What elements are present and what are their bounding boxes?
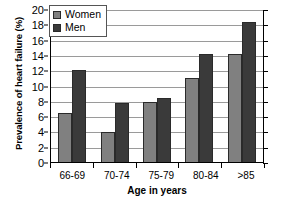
legend-swatch-women-icon bbox=[53, 11, 61, 19]
bar-group-80-84 bbox=[185, 10, 213, 163]
x-axis-tick-marks bbox=[50, 163, 264, 170]
y-axis-tick-mark bbox=[44, 25, 48, 26]
legend-item-men: Men bbox=[53, 21, 101, 34]
y-axis-tick-mark bbox=[44, 163, 48, 164]
y-axis-tick-mark bbox=[44, 117, 48, 118]
legend-label-men: Men bbox=[65, 22, 85, 33]
x-axis-tick-label: >85 bbox=[238, 170, 255, 181]
right-axis-tick-mark bbox=[263, 132, 268, 133]
x-axis-tick-label: 75-79 bbox=[149, 170, 175, 181]
y-axis-tick-mark bbox=[44, 71, 48, 72]
y-axis-tick-label: 10 bbox=[32, 81, 44, 92]
right-axis-tick-mark bbox=[263, 10, 268, 11]
y-axis-tick-label: 16 bbox=[32, 35, 44, 46]
right-axis-tick-mark bbox=[263, 56, 268, 57]
x-axis-tick-labels: 66-6970-7475-7980-84>85 bbox=[50, 170, 264, 181]
right-axis-tick-mark bbox=[263, 117, 268, 118]
bar-group-85 bbox=[228, 10, 256, 163]
right-axis-tick-mark bbox=[263, 102, 268, 103]
y-axis-tick-label: 14 bbox=[32, 50, 44, 61]
y-axis-tick-mark bbox=[44, 55, 48, 56]
right-axis-tick-mark bbox=[263, 71, 268, 72]
x-axis-tick-mark bbox=[221, 163, 222, 168]
y-axis-tick-mark bbox=[44, 132, 48, 133]
bar-men bbox=[72, 70, 86, 163]
x-axis-tick-mark bbox=[50, 163, 51, 168]
right-axis-tick-mark bbox=[263, 41, 268, 42]
legend-item-women: Women bbox=[53, 8, 101, 21]
bar-men bbox=[242, 22, 256, 163]
y-axis-tick-labels: 02468101214161820 bbox=[18, 0, 48, 204]
x-axis-tick-label: 70-74 bbox=[104, 170, 130, 181]
y-axis-tick-label: 12 bbox=[32, 66, 44, 77]
bar-chart: Prevalence of heart failure (%) 02468101… bbox=[0, 0, 282, 204]
x-axis-title: Age in years bbox=[50, 185, 264, 196]
y-axis-tick-mark bbox=[44, 86, 48, 87]
y-axis-tick-mark bbox=[44, 40, 48, 41]
bar-women bbox=[185, 78, 199, 163]
y-axis-tick-mark bbox=[44, 147, 48, 148]
x-axis-tick-mark bbox=[93, 163, 94, 168]
legend-label-women: Women bbox=[65, 9, 101, 20]
x-axis-tick-label: 80-84 bbox=[193, 170, 219, 181]
legend: Women Men bbox=[49, 5, 107, 37]
right-axis-tick-mark bbox=[263, 25, 268, 26]
bar-women bbox=[143, 102, 157, 163]
y-axis-tick-mark bbox=[44, 101, 48, 102]
x-axis-tick-label: 66-69 bbox=[59, 170, 85, 181]
bar-men bbox=[115, 103, 129, 163]
bar-women bbox=[228, 54, 242, 163]
right-axis-tick-mark bbox=[263, 148, 268, 149]
bar-women bbox=[58, 113, 72, 163]
x-axis-tick-mark bbox=[264, 163, 265, 168]
bar-men bbox=[157, 98, 171, 163]
bar-group-75-79 bbox=[143, 10, 171, 163]
bar-women bbox=[101, 132, 115, 163]
x-axis-tick-mark bbox=[178, 163, 179, 168]
right-axis-tick-mark bbox=[263, 87, 268, 88]
y-axis-tick-label: 18 bbox=[32, 20, 44, 31]
x-axis-tick-mark bbox=[136, 163, 137, 168]
bar-men bbox=[199, 54, 213, 163]
legend-swatch-men-icon bbox=[53, 24, 61, 32]
y-axis-tick-label: 20 bbox=[32, 5, 44, 16]
y-axis-tick-mark bbox=[44, 10, 48, 11]
